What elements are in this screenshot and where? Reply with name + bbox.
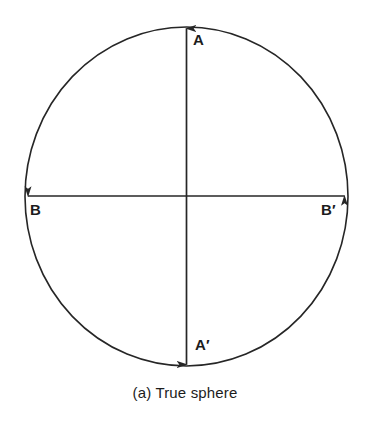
axis-label-b: B [30, 202, 41, 217]
axis-label-b-prime: B′ [321, 202, 336, 217]
figure-true-sphere: A A′ B B′ (a) True sphere [0, 0, 370, 427]
axis-label-a: A [193, 32, 204, 47]
axis-label-a-prime: A′ [195, 337, 210, 352]
figure-caption: (a) True sphere [0, 384, 370, 401]
sphere-diagram-canvas [0, 0, 370, 427]
